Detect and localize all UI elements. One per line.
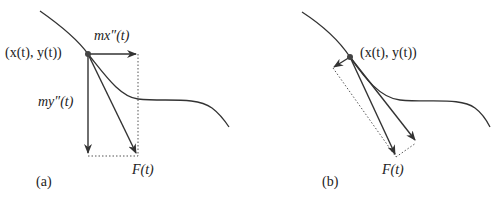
figure-graphics [0,0,502,198]
caption-a: (a) [36,175,52,189]
horizontal-component-label: mx″(t) [94,29,129,43]
force-arrow-a [88,54,136,153]
dotted-guide-long-b [333,68,396,157]
panel-a-graphics [40,11,229,156]
force-label-a: F(t) [132,163,154,177]
trajectory-curve-b [302,12,490,127]
point-label-a: (x(t), y(t)) [5,46,62,60]
panel-b-graphics [302,12,490,157]
force-label-b: F(t) [382,163,404,177]
caption-b: (b) [322,175,338,189]
point-label-b: (x(t), y(t)) [360,46,417,60]
vertical-component-label: my″(t) [38,95,73,109]
point-dot-a [85,51,91,57]
force-decomposition-figure: (x(t), y(t)) mx″(t) my″(t) F(t) (a) (x(t… [0,0,502,198]
trajectory-curve-a [40,11,229,127]
dotted-guide-short-b [396,143,416,157]
point-dot-b [347,54,353,60]
